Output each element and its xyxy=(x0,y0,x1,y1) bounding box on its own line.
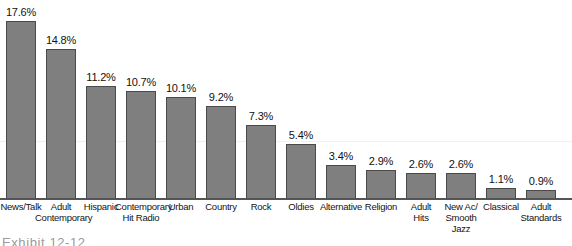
category-label-line: Contemporary xyxy=(35,212,87,223)
bar[interactable] xyxy=(326,165,356,199)
bar[interactable] xyxy=(6,21,36,199)
bar-value-label: 14.8% xyxy=(37,34,85,46)
bar[interactable] xyxy=(246,125,276,199)
bar[interactable] xyxy=(166,97,196,199)
bar[interactable] xyxy=(366,170,396,199)
category-label-line: Hit Radio xyxy=(115,212,167,223)
bar-slot: 2.6% xyxy=(401,0,441,199)
category-axis: News/TalkAdultContemporaryHispanicContem… xyxy=(0,201,572,235)
bar-value-label: 5.4% xyxy=(277,129,325,141)
plot-area: 17.6%14.8%11.2%10.7%10.1%9.2%7.3%5.4%3.4… xyxy=(0,0,572,199)
bar-slot: 5.4% xyxy=(281,0,321,199)
bar-slot: 14.8% xyxy=(41,0,81,199)
bar[interactable] xyxy=(406,173,436,199)
bar[interactable] xyxy=(46,49,76,199)
bar-value-label: 9.2% xyxy=(197,91,245,103)
bar-value-label: 7.3% xyxy=(237,110,285,122)
bar[interactable] xyxy=(126,91,156,199)
category-label-line: Smooth Jazz xyxy=(435,212,487,234)
category-label-line: Standards xyxy=(515,212,567,223)
bar-slot: 3.4% xyxy=(321,0,361,199)
bar[interactable] xyxy=(86,86,116,199)
bar[interactable] xyxy=(446,173,476,199)
bar-slot: 17.6% xyxy=(1,0,41,199)
bar[interactable] xyxy=(206,106,236,199)
bar-value-label: 2.6% xyxy=(437,158,485,170)
bar-slot: 1.1% xyxy=(481,0,521,199)
bar-slot: 10.1% xyxy=(161,0,201,199)
category-label-line: Adult xyxy=(515,201,567,212)
bar-slot: 0.9% xyxy=(521,0,561,199)
category-label: AdultStandards xyxy=(515,201,567,223)
exhibit-caption: Exhibit 12-12 xyxy=(2,236,86,246)
bar-value-label: 0.9% xyxy=(517,175,565,187)
bar-slot: 11.2% xyxy=(81,0,121,199)
bar-slot: 10.7% xyxy=(121,0,161,199)
bar-value-label: 17.6% xyxy=(0,6,45,18)
bar-chart: 17.6%14.8%11.2%10.7%10.1%9.2%7.3%5.4%3.4… xyxy=(0,0,572,246)
bar[interactable] xyxy=(286,144,316,199)
bar-slot: 7.3% xyxy=(241,0,281,199)
bar-slot: 2.6% xyxy=(441,0,481,199)
bar-slot: 9.2% xyxy=(201,0,241,199)
bar-slot: 2.9% xyxy=(361,0,401,199)
baseline-axis xyxy=(0,198,572,200)
